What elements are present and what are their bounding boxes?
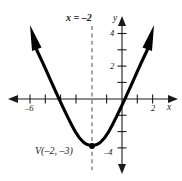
graph-canvas	[0, 0, 182, 181]
curve-right-arrowhead	[143, 25, 155, 51]
vertex-label: V(–2, –3)	[35, 146, 73, 156]
y-axis-label: y	[113, 14, 117, 24]
axis-of-symmetry-label: x = –2	[66, 13, 92, 23]
x-tick-label-2: 2	[151, 104, 155, 113]
x-tick-label-neg6: –6	[25, 104, 34, 113]
curve-left-arrowhead	[30, 25, 42, 51]
y-tick-label-4: 4	[110, 29, 114, 38]
parabola-graph-figure: x = –2 y x –6 2 4 2 –4 V(–2, –3)	[0, 0, 182, 181]
vertex-point	[89, 143, 95, 149]
y-tick-label-2: 2	[110, 62, 114, 71]
y-tick-label-neg4: –4	[104, 148, 113, 157]
x-axis-label: x	[167, 103, 171, 113]
